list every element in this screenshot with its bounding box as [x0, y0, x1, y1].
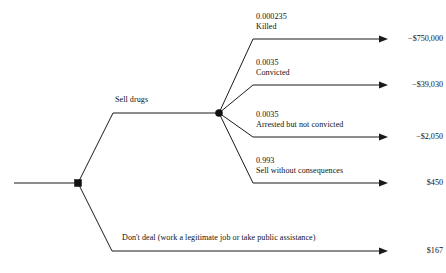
edge-root-to-sell-drugs — [78, 113, 219, 183]
payoff-dont-deal: $167 — [343, 246, 443, 255]
probability-arrested: 0.0035 — [256, 110, 279, 120]
outcome-label-arrested: Arrested but not convicted — [256, 120, 343, 130]
payoff-arrested: −$2,050 — [343, 132, 443, 141]
decision-tree-figure: Sell drugs 0.000235 Killed −$750,000 0.0… — [0, 0, 446, 273]
branch-label-dont-deal: Don't deal (work a legitimate job or tak… — [122, 233, 315, 243]
branch-label-sell-drugs: Sell drugs — [115, 95, 148, 105]
edge-chance-to-killed — [219, 39, 379, 113]
payoff-no-consequences: $450 — [343, 178, 443, 187]
payoff-convicted: −$39,030 — [343, 80, 443, 89]
probability-killed: 0.000235 — [256, 12, 287, 22]
probability-no-consequences: 0.993 — [256, 156, 274, 166]
edge-chance-to-convicted — [219, 85, 379, 113]
decision-node[interactable] — [75, 180, 82, 187]
probability-convicted: 0.0035 — [256, 58, 279, 68]
outcome-label-convicted: Convicted — [256, 68, 290, 78]
outcome-label-no-consequences: Sell without consequences — [256, 166, 343, 176]
payoff-killed: −$750,000 — [343, 34, 443, 43]
chance-node[interactable] — [215, 109, 222, 116]
outcome-label-killed: Killed — [256, 22, 277, 32]
